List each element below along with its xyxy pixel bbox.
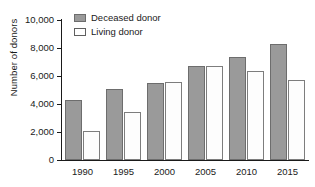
x-axis-label-1990: 1990 [62, 166, 103, 177]
legend-item-living: Living donor [74, 25, 161, 38]
y-tick-label: 10,000 [6, 14, 54, 25]
y-tick-label-wrap: 0 [0, 154, 54, 166]
plot-area [62, 20, 308, 160]
bar-deceased-2000 [147, 83, 164, 160]
bar-deceased-1990 [65, 100, 82, 160]
bar-deceased-2005 [188, 66, 205, 161]
x-axis-label-2015: 2015 [267, 166, 308, 177]
y-tick-label-wrap: 4,000 [0, 98, 54, 110]
y-tick-label: 2,000 [6, 126, 54, 137]
x-axis-label-1995: 1995 [103, 166, 144, 177]
bar-deceased-1995 [106, 89, 123, 160]
bar-living-2000 [165, 82, 182, 160]
legend-label-deceased: Deceased donor [91, 12, 161, 23]
x-axis-line [61, 160, 309, 161]
bar-deceased-2015 [270, 44, 287, 160]
bar-living-2015 [288, 80, 305, 161]
y-tick-label-wrap: 10,000 [0, 14, 54, 26]
x-axis-label-2000: 2000 [144, 166, 185, 177]
y-tick-label-wrap: 2,000 [0, 126, 54, 138]
legend-swatch-living-icon [74, 28, 86, 36]
chart-legend: Deceased donor Living donor [74, 11, 161, 39]
y-tick-label: 4,000 [6, 98, 54, 109]
bar-living-2010 [247, 71, 264, 160]
bar-group [65, 20, 100, 160]
bar-living-1995 [124, 112, 141, 160]
x-axis-label-2010: 2010 [226, 166, 267, 177]
bar-deceased-2010 [229, 57, 246, 160]
legend-label-living: Living donor [91, 26, 143, 37]
bar-group [147, 20, 182, 160]
bar-living-2005 [206, 66, 223, 160]
bar-living-1990 [83, 131, 100, 160]
bar-chart: Number of donors 02,0004,0006,0008,00010… [0, 0, 315, 187]
legend-item-deceased: Deceased donor [74, 11, 161, 24]
legend-swatch-deceased-icon [74, 14, 86, 22]
bar-group [106, 20, 141, 160]
x-axis-label-2005: 2005 [185, 166, 226, 177]
bar-group [270, 20, 305, 160]
y-tick-label: 6,000 [6, 70, 54, 81]
y-tick-label: 8,000 [6, 42, 54, 53]
y-tick-label-wrap: 6,000 [0, 70, 54, 82]
y-tick-label-wrap: 8,000 [0, 42, 54, 54]
bar-group [229, 20, 264, 160]
y-tick-label: 0 [6, 154, 54, 165]
bar-group [188, 20, 223, 160]
